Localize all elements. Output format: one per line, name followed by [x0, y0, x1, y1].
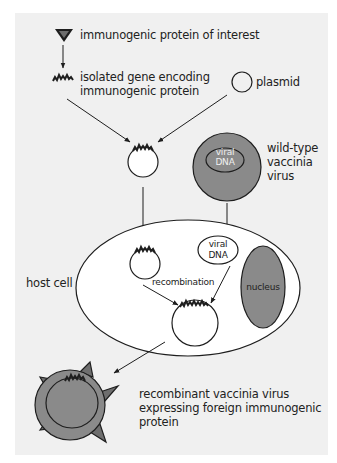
plasmid-label: plasmid [256, 75, 300, 89]
recombination-label: recombination [152, 277, 214, 288]
recombinant-dna-icon [172, 300, 218, 346]
host-cell-label: host cell [26, 276, 72, 290]
recombinant-virus-icon [35, 362, 118, 442]
inner-viral-dna-line2: DNA [203, 250, 233, 260]
plasmid-in-cell-icon [130, 247, 160, 279]
wildtype-label-line3: virus [267, 169, 294, 183]
inner-viral-dna-line1: viral [203, 239, 233, 249]
plasmid-circle-icon [232, 72, 252, 92]
wildtype-label-line1: wild-type [267, 141, 318, 155]
result-label-line2: expressing foreign immunogenic [139, 401, 321, 415]
recombinant-plasmid-icon [128, 145, 158, 177]
result-label-line1: recombinant vaccinia virus [139, 387, 289, 401]
arrow-icon [67, 99, 130, 142]
result-label-line3: protein [139, 415, 178, 429]
inverted-triangle-icon [55, 29, 73, 42]
protein-label: immunogenic protein of interest [80, 28, 259, 42]
wildtype-label-line2: vaccinia [267, 155, 313, 169]
nucleus-label: nucleus [245, 282, 281, 292]
zigzag-gene-icon [53, 75, 73, 81]
gene-label-line2: immunogenic protein [80, 84, 199, 98]
outer-viral-dna-line2: DNA [210, 157, 240, 167]
gene-label-line1: isolated gene encoding [80, 70, 210, 84]
wildtype-virus-icon [193, 133, 261, 201]
outer-viral-dna-line1: viral [210, 147, 240, 157]
